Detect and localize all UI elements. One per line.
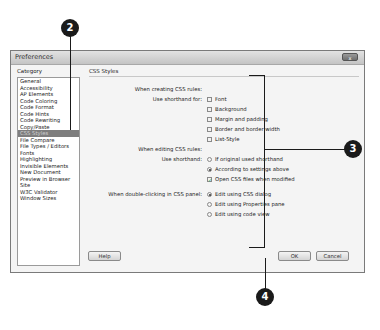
callout-3-bracket-top <box>249 75 265 76</box>
edit-properties-pane-radio[interactable]: Edit using Properties pane <box>207 201 285 207</box>
category-item[interactable]: Window Sizes <box>18 195 79 202</box>
background-checkbox[interactable]: Background <box>207 106 247 112</box>
ok-button[interactable]: OK <box>278 251 311 261</box>
radio-icon <box>207 202 212 207</box>
help-button[interactable]: Help <box>88 251 121 261</box>
editing-heading: When editing CSS rules: <box>138 146 202 152</box>
cancel-button[interactable]: Cancel <box>316 251 349 261</box>
editing-shorthand-label: Use shorthand: <box>162 156 202 162</box>
callout-4-line <box>265 258 266 292</box>
close-button[interactable]: x <box>342 53 358 61</box>
title-bar: Preferences x <box>11 51 364 65</box>
preferences-dialog: Preferences x Category General Accessibi… <box>10 50 365 273</box>
radio-icon <box>207 157 212 162</box>
section-divider <box>89 76 359 77</box>
radio-selected-icon <box>207 192 212 197</box>
according-settings-radio[interactable]: According to settings above <box>207 166 289 172</box>
list-style-checkbox[interactable]: List-Style <box>207 136 239 142</box>
callout-3-bracket-side <box>264 75 265 248</box>
callout-4-badge: 4 <box>256 288 274 306</box>
callout-2-badge: 2 <box>61 19 79 37</box>
callout-3-line <box>264 149 354 150</box>
edit-code-view-radio[interactable]: Edit using code view <box>207 211 270 217</box>
font-checkbox[interactable]: Font <box>207 96 227 102</box>
checkbox-icon <box>207 127 212 132</box>
creating-shorthand-label: Use shorthand for: <box>153 96 202 102</box>
creating-heading: When creating CSS rules: <box>135 86 202 92</box>
checkbox-icon <box>207 97 212 102</box>
callout-2-line <box>70 36 71 130</box>
section-title: CSS Styles <box>89 68 118 74</box>
radio-selected-icon <box>207 167 212 172</box>
border-width-checkbox[interactable]: Border and border width <box>207 126 280 132</box>
checkbox-icon <box>207 137 212 142</box>
category-label: Category <box>17 68 42 74</box>
dialog-title: Preferences <box>15 53 53 61</box>
checkbox-icon <box>207 107 212 112</box>
radio-icon <box>207 212 212 217</box>
checkmark-icon: ✓ <box>207 177 212 182</box>
checkbox-icon <box>207 117 212 122</box>
callout-3-badge: 3 <box>344 140 362 158</box>
double-click-label: When double-clicking in CSS panel: <box>108 191 202 197</box>
edit-css-dialog-radio[interactable]: Edit using CSS dialog <box>207 191 271 197</box>
open-css-files-checkbox[interactable]: ✓Open CSS files when modified <box>207 176 295 182</box>
callout-3-bracket-bottom <box>249 247 265 248</box>
margin-padding-checkbox[interactable]: Margin and padding <box>207 116 268 122</box>
if-original-radio[interactable]: If original used shorthand <box>207 156 283 162</box>
